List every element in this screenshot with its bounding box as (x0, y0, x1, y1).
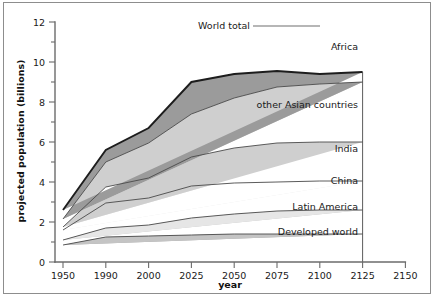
band-label-india: India (335, 143, 358, 154)
y-axis-tick-labels: 024681012 (33, 17, 45, 268)
y-tick-label: 12 (33, 17, 45, 28)
x-tick-label: 2100 (308, 270, 332, 281)
band-label-africa: Africa (331, 41, 358, 52)
y-axis-title: projected population (billions) (15, 60, 26, 223)
chart-figure: 195019902000202520502075210021252150 024… (0, 0, 434, 299)
band-label-developed-world: Developed world (278, 226, 358, 237)
x-tick-label: 2125 (351, 270, 375, 281)
y-tick-label: 8 (39, 97, 45, 108)
x-tick-label: 1950 (51, 270, 75, 281)
x-axis-title: year (218, 279, 242, 290)
band-label-other-asian: other Asian countries (257, 99, 358, 110)
band-label-latin-america: Latin America (292, 201, 358, 212)
x-tick-label: 2075 (265, 270, 289, 281)
band-label-china: China (331, 175, 358, 186)
y-tick-label: 2 (39, 217, 45, 228)
world-total-label: World total (198, 20, 250, 31)
y-tick-label: 4 (39, 177, 45, 188)
y-tick-label: 6 (39, 137, 45, 148)
y-tick-label: 0 (39, 257, 45, 268)
x-tick-label: 2000 (137, 270, 161, 281)
x-tick-label: 2150 (393, 270, 417, 281)
area-chart-plot: 195019902000202520502075210021252150 024… (0, 0, 434, 299)
y-tick-label: 10 (33, 57, 45, 68)
x-tick-label: 2025 (179, 270, 203, 281)
x-tick-label: 1990 (94, 270, 118, 281)
